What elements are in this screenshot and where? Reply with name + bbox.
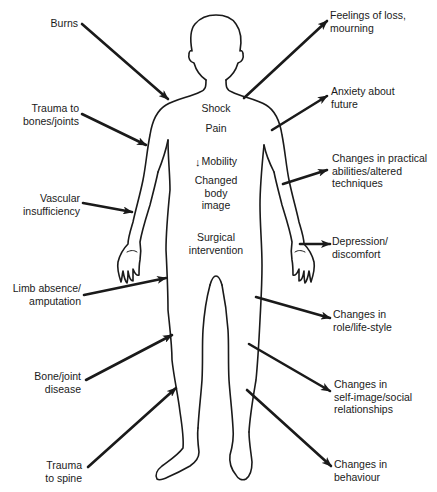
effect-label-self-image: Changes in self-image/social relationshi… [334, 378, 437, 416]
center-label-surgical-intervention: Surgical intervention [170, 231, 262, 256]
cause-label-vascular-insufficiency: Vascular insufficiency [0, 192, 80, 217]
arrow-burns [82, 24, 168, 99]
cause-label-limb-absence: Limb absence/ amputation [0, 282, 81, 307]
center-label-mobility: ↓Mobility [178, 142, 254, 167]
body-diagram: Shock Pain ↓Mobility Changed body image … [0, 0, 437, 492]
arrow-self-image [249, 344, 330, 391]
arrow-practical-abilities [283, 170, 327, 184]
arrow-trauma-bones-joints [82, 114, 146, 145]
inner-right-leg-outline [222, 285, 252, 480]
arrow-feelings-of-loss [244, 21, 327, 98]
center-label-changed-body-image: Changed body image [180, 174, 252, 212]
arrow-bone-joint-disease [86, 335, 172, 380]
head-outline [189, 15, 244, 80]
arrow-vascular-insufficiency [83, 203, 132, 212]
crotch-outline [210, 276, 222, 285]
arrow-behaviour [247, 390, 331, 466]
effect-label-role-lifestyle: Changes in role/life-style [333, 308, 437, 333]
cause-arrows [82, 24, 176, 467]
cause-label-trauma-spine: Trauma to spine [0, 459, 82, 484]
arrow-role-lifestyle [256, 297, 330, 318]
right-inner-arm-line [264, 145, 274, 172]
inner-left-leg-outline [198, 285, 210, 428]
left-thumb-line [127, 251, 137, 253]
left-inner-arm-line [158, 140, 168, 172]
arrow-trauma-spine [88, 388, 176, 467]
effect-label-depression: Depression/ discomfort [332, 235, 437, 260]
arrow-anxiety [272, 96, 327, 130]
cause-label-bone-joint-disease: Bone/joint disease [0, 370, 81, 395]
right-thumb-line [295, 251, 305, 253]
center-label-pain: Pain [190, 122, 242, 135]
down-arrow-icon: ↓ [195, 157, 201, 167]
effect-label-practical-abilities: Changes in practical abilities/altered t… [332, 152, 437, 190]
mobility-text: Mobility [201, 155, 237, 167]
cause-label-trauma-bones-joints: Trauma to bones/joints [0, 102, 79, 127]
center-label-shock: Shock [190, 102, 242, 115]
effect-label-anxiety: Anxiety about future [331, 85, 437, 110]
cause-label-burns: Burns [0, 17, 78, 30]
effect-label-behaviour: Changes in behaviour [334, 458, 437, 483]
effect-label-feelings-of-loss: Feelings of loss, mourning [330, 9, 437, 34]
